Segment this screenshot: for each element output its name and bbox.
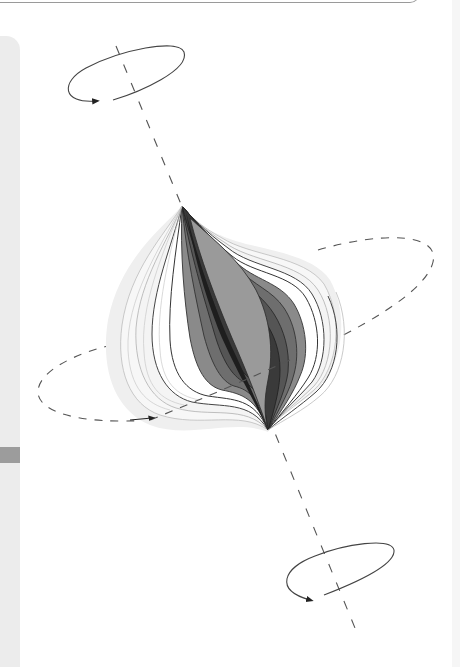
bottom-rotation-arrow-icon bbox=[287, 543, 394, 600]
vortex-body bbox=[106, 206, 344, 432]
top-rotation-arrow-icon bbox=[68, 46, 184, 101]
vortex-diagram bbox=[0, 0, 460, 667]
